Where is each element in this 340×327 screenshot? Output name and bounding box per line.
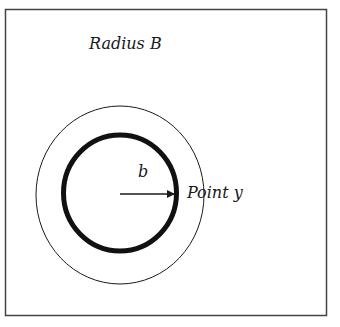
diagram-canvas: Radius B b Point y (0, 0, 340, 327)
point-label: Point y (186, 183, 244, 202)
outer-radius-label: Radius B (88, 34, 162, 53)
inner-radius-label: b (138, 162, 148, 181)
